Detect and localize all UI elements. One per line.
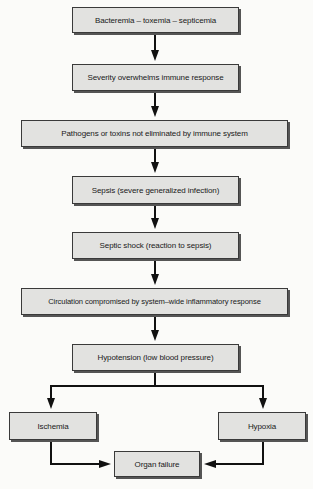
node-septic-shock: Septic shock (reaction to sepsis) bbox=[72, 232, 239, 259]
node-bacteremia: Bacteremia – toxemia – septicemia bbox=[72, 7, 239, 33]
arrow-9-10 bbox=[216, 442, 263, 464]
node-hypoxia: Hypoxia bbox=[218, 412, 306, 440]
node-severity-overwhelms: Severity overwhelms immune response bbox=[72, 64, 239, 91]
node-circulation-compromised: Circulation compromised by system–wide i… bbox=[21, 288, 288, 315]
arrow-7-8 bbox=[51, 373, 155, 400]
node-pathogens-not-eliminated: Pathogens or toxins not eliminated by im… bbox=[21, 120, 288, 147]
node-hypotension: Hypotension (low blood pressure) bbox=[72, 344, 239, 371]
node-organ-failure: Organ failure bbox=[114, 451, 200, 477]
node-sepsis: Sepsis (severe generalized infection) bbox=[72, 176, 239, 204]
arrow-8-10 bbox=[51, 442, 100, 464]
node-ischemia: Ischemia bbox=[9, 412, 97, 440]
arrow-7-9 bbox=[155, 386, 263, 400]
